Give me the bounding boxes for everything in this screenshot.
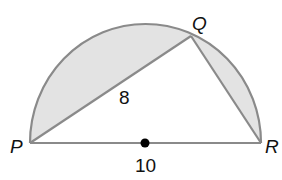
center-dot bbox=[141, 139, 150, 148]
vertex-label-r: R bbox=[265, 136, 279, 157]
vertex-label-p: P bbox=[10, 136, 23, 157]
vertex-label-q: Q bbox=[192, 13, 207, 34]
semicircle-diagram: P Q R 8 10 bbox=[0, 0, 282, 180]
measure-label-pq: 8 bbox=[119, 87, 130, 108]
measure-label-pr: 10 bbox=[135, 155, 156, 176]
